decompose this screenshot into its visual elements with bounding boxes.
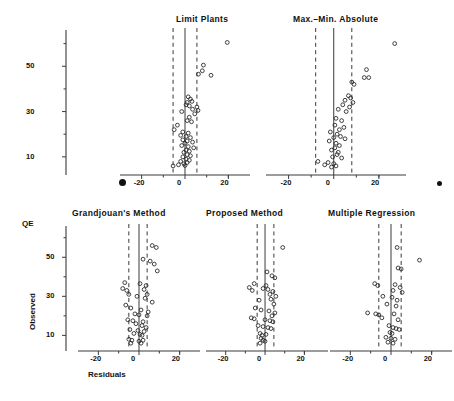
data-point xyxy=(334,164,338,168)
scatter-panel-limit-plants xyxy=(120,30,250,175)
data-point xyxy=(209,73,213,77)
data-point xyxy=(141,257,145,261)
x-tick-label: 20 xyxy=(424,354,432,363)
data-point xyxy=(352,82,356,86)
data-point xyxy=(141,320,145,324)
data-point xyxy=(367,76,371,80)
data-point xyxy=(384,335,388,339)
data-point xyxy=(176,123,180,127)
y-axis-top xyxy=(48,30,72,175)
data-point xyxy=(395,298,399,302)
data-point xyxy=(347,94,351,98)
x-tick-label: 0 xyxy=(383,354,387,363)
data-point xyxy=(180,110,184,114)
data-point xyxy=(177,163,181,167)
data-point xyxy=(261,325,265,329)
data-point xyxy=(316,160,320,164)
data-point xyxy=(323,163,327,167)
data-point xyxy=(268,292,272,296)
x-tick-label: 20 xyxy=(220,178,228,187)
data-point xyxy=(123,281,127,285)
data-point xyxy=(124,303,128,307)
data-point xyxy=(391,341,395,345)
data-point xyxy=(146,310,150,314)
data-point xyxy=(134,322,138,326)
data-point xyxy=(135,294,139,298)
data-point xyxy=(330,165,334,169)
data-point xyxy=(267,309,271,313)
page-marker-dot-left xyxy=(119,179,126,186)
data-point xyxy=(140,324,144,328)
data-point xyxy=(144,326,148,330)
top-ytick-label: 30 xyxy=(26,107,34,116)
data-point xyxy=(330,148,334,152)
data-point xyxy=(148,259,152,263)
data-point xyxy=(252,282,256,286)
panel-title-proposed-method: Proposed Method xyxy=(206,208,283,218)
x-tick-label: 20 xyxy=(371,178,379,187)
data-point xyxy=(190,120,194,124)
data-point xyxy=(394,304,398,308)
data-point xyxy=(258,341,262,345)
data-point xyxy=(334,116,338,120)
bottom-ytick-label: 30 xyxy=(46,291,54,300)
x-tick-label: -20 xyxy=(342,354,353,363)
top-ytick-label: 10 xyxy=(26,152,34,161)
scatter-panel-proposed-method xyxy=(206,226,328,351)
data-point xyxy=(340,119,344,123)
panel-title-max-min-absolute: Max.–Min. Absolute xyxy=(293,14,378,24)
data-point xyxy=(395,246,399,250)
data-point xyxy=(143,296,147,300)
data-point xyxy=(392,312,396,316)
data-point xyxy=(269,297,273,301)
data-point xyxy=(259,308,263,312)
data-point xyxy=(339,135,343,139)
data-point xyxy=(381,294,385,298)
x-tick-label: 0 xyxy=(257,354,261,363)
data-point xyxy=(344,110,348,114)
data-point xyxy=(150,244,154,248)
data-point xyxy=(155,269,159,273)
data-point xyxy=(418,258,422,262)
data-point xyxy=(341,103,345,107)
data-point xyxy=(225,41,229,45)
x-tick-label: 20 xyxy=(172,354,180,363)
data-point xyxy=(396,318,400,322)
data-point xyxy=(180,144,184,148)
data-point xyxy=(270,314,274,318)
bottom-ytick-label: 10 xyxy=(46,330,54,339)
y-axis-label-qe: QE xyxy=(22,219,34,228)
data-point xyxy=(142,330,146,334)
data-point xyxy=(266,288,270,292)
x-tick-label: -20 xyxy=(218,354,229,363)
data-point xyxy=(191,107,195,111)
data-point xyxy=(152,262,156,266)
data-point xyxy=(150,300,154,304)
x-tick-label: -20 xyxy=(90,354,101,363)
data-point xyxy=(129,306,133,310)
x-tick-label: 0 xyxy=(177,178,181,187)
data-point xyxy=(202,63,206,67)
data-point xyxy=(142,288,146,292)
data-point xyxy=(337,128,341,132)
data-point xyxy=(191,140,195,144)
data-point xyxy=(393,337,397,341)
data-point xyxy=(362,76,366,80)
top-ytick-label: 50 xyxy=(26,61,34,70)
data-point xyxy=(154,246,158,250)
data-point xyxy=(342,126,346,130)
data-point xyxy=(256,324,260,328)
data-point xyxy=(343,137,347,141)
scatter-panel-max-min-absolute xyxy=(266,30,406,175)
data-point xyxy=(253,306,257,310)
data-point xyxy=(393,42,397,46)
data-point xyxy=(365,68,369,72)
panel-title-limit-plants: Limit Plants xyxy=(176,14,228,24)
x-tick-label: 0 xyxy=(131,354,135,363)
data-point xyxy=(189,136,193,140)
x-tick-label: 20 xyxy=(296,354,304,363)
data-point xyxy=(343,98,347,102)
data-point xyxy=(386,340,390,344)
y-axis-label-observed: Observed xyxy=(28,293,37,330)
data-point xyxy=(257,298,261,302)
